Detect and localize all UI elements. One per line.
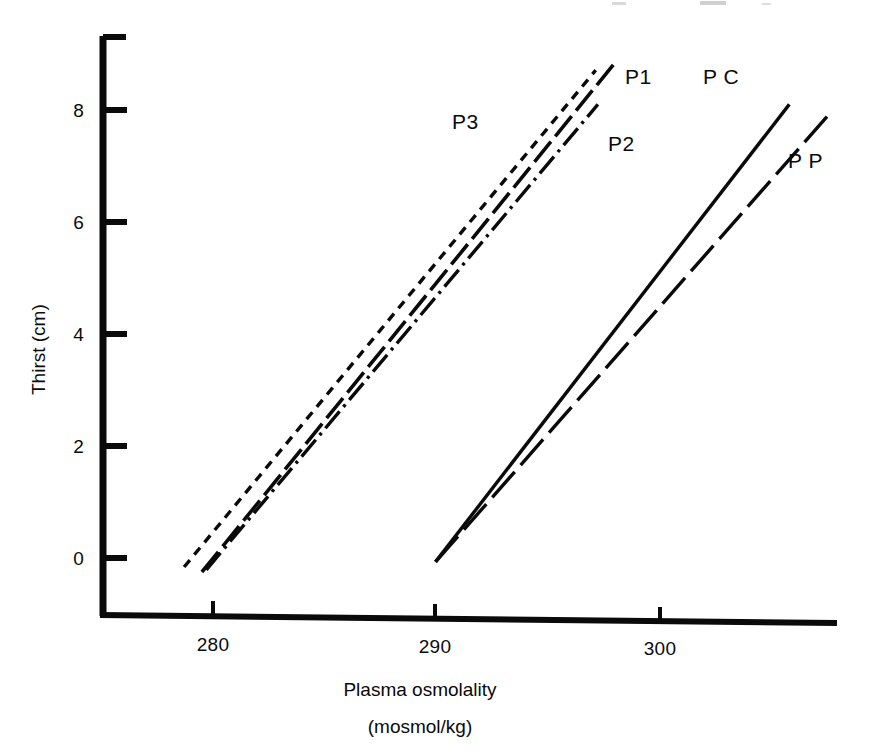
series-line-P3 xyxy=(184,70,596,567)
x-axis-spine xyxy=(100,615,837,623)
series-line-P1 xyxy=(202,62,616,572)
scan-artifacts xyxy=(612,1,771,5)
y-tick-label-2: 2 xyxy=(44,436,84,458)
x-axis-title-line2: (mosmol/kg) xyxy=(290,716,550,738)
y-axis-ticks xyxy=(104,110,127,558)
y-tick-label-8: 8 xyxy=(44,100,84,122)
y-tick-label-6: 6 xyxy=(44,212,84,234)
y-axis-title: Thirst (cm) xyxy=(28,304,50,395)
series-line-P2 xyxy=(206,104,598,569)
x-tick-label-300: 300 xyxy=(625,638,695,660)
x-axis-title-line1: Plasma osmolality xyxy=(290,679,550,701)
data-series-group xyxy=(184,62,829,572)
series-label-P3: P3 xyxy=(452,110,479,134)
series-label-PC: P C xyxy=(703,65,739,89)
thirst-vs-plasma-osmolality-figure: 8 6 4 2 0 280 290 300 Thirst (cm) Plasma… xyxy=(0,0,883,756)
series-line-PP xyxy=(436,114,830,562)
series-label-PP: P P xyxy=(788,149,823,173)
series-label-P2: P2 xyxy=(608,132,635,156)
y-tick-label-4: 4 xyxy=(44,324,84,346)
x-tick-label-280: 280 xyxy=(178,634,248,656)
x-tick-label-290: 290 xyxy=(400,636,470,658)
y-tick-label-0: 0 xyxy=(44,548,84,570)
series-line-PC xyxy=(436,104,790,562)
series-label-P1: P1 xyxy=(625,65,652,89)
